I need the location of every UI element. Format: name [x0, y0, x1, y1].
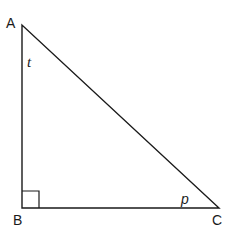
triangle-abc	[22, 25, 219, 208]
vertex-label-c: C	[212, 212, 222, 228]
angle-label-t: t	[27, 54, 32, 70]
triangle-diagram: A B C t p	[0, 0, 232, 230]
angle-label-p: p	[180, 191, 189, 207]
right-angle-marker	[22, 191, 39, 208]
vertex-label-a: A	[6, 15, 16, 31]
vertex-label-b: B	[13, 212, 22, 228]
